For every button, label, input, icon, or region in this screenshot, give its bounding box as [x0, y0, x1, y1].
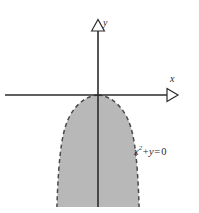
plot-canvas [0, 0, 199, 213]
parabola-figure: y x x2+y=0 [0, 0, 199, 213]
equation-equals-operator: = [154, 146, 161, 157]
x-axis-label: x [170, 74, 174, 84]
y-axis-label: y [103, 18, 107, 28]
equation-zero: 0 [161, 146, 167, 157]
curve-equation-label: x2+y=0 [134, 145, 167, 157]
x-axis-arrowhead-icon [167, 89, 178, 102]
